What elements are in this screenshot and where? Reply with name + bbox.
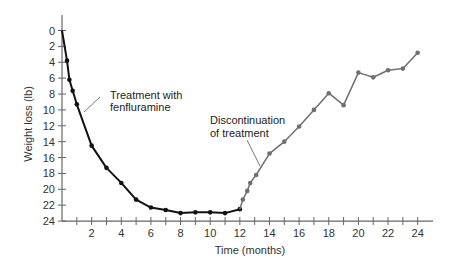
- data-point: [241, 197, 246, 202]
- x-tick-label: 18: [323, 227, 335, 239]
- y-tick-label: 0: [49, 25, 55, 37]
- data-point: [248, 181, 253, 186]
- y-axis-title: Weight loss (lb): [22, 86, 34, 162]
- annotation-leader: [247, 140, 260, 166]
- annotation-label: Treatment with: [110, 89, 182, 101]
- x-tick-label: 22: [382, 227, 394, 239]
- x-tick-label: 24: [412, 227, 424, 239]
- annotation-label: of treatment: [210, 127, 269, 139]
- annotation-layer: Treatment withfenfluramineDiscontinuatio…: [84, 89, 285, 166]
- y-tick-label: 8: [49, 88, 55, 100]
- x-tick-label: 20: [352, 227, 364, 239]
- y-tick-label: 20: [43, 183, 55, 195]
- data-point: [119, 181, 124, 186]
- data-point: [104, 166, 109, 171]
- annotation-label: Discontinuation: [210, 114, 285, 126]
- y-tick-label: 18: [43, 167, 55, 179]
- data-point: [282, 139, 287, 144]
- data-point: [371, 75, 376, 80]
- weight-loss-chart: 0246810121416182022242468101214161820222…: [0, 0, 453, 272]
- data-point: [65, 58, 70, 63]
- annotation-leader: [84, 97, 100, 112]
- y-tick-label: 6: [49, 72, 55, 84]
- x-tick-label: 10: [204, 227, 216, 239]
- x-tick-label: 14: [263, 227, 275, 239]
- data-point: [134, 197, 139, 202]
- x-tick-label: 6: [148, 227, 154, 239]
- data-point: [415, 50, 420, 55]
- data-point: [163, 208, 168, 213]
- data-point: [312, 108, 317, 113]
- data-point: [401, 66, 406, 71]
- y-tick-label: 12: [43, 120, 55, 132]
- chart-canvas: 0246810121416182022242468101214161820222…: [0, 0, 453, 272]
- data-point: [267, 151, 272, 156]
- y-tick-label: 22: [43, 199, 55, 211]
- data-point: [297, 124, 302, 129]
- y-tick-label: 2: [49, 40, 55, 52]
- data-point: [208, 210, 213, 215]
- y-tick-label: 4: [49, 56, 55, 68]
- data-point: [149, 205, 154, 210]
- x-axis-title: Time (months): [215, 244, 286, 256]
- y-tick-label: 10: [43, 104, 55, 116]
- y-tick-label: 16: [43, 152, 55, 164]
- data-point: [245, 189, 250, 194]
- y-tick-label: 14: [43, 136, 55, 148]
- data-point: [89, 143, 94, 148]
- x-tick-label: 4: [118, 227, 124, 239]
- x-tick-label: 16: [293, 227, 305, 239]
- data-point: [356, 70, 361, 75]
- data-point: [178, 211, 183, 216]
- annotation-label: fenfluramine: [110, 101, 171, 113]
- data-point: [193, 210, 198, 215]
- data-point: [254, 173, 259, 178]
- data-point: [386, 68, 391, 73]
- data-point: [75, 102, 80, 107]
- data-point: [70, 89, 75, 94]
- data-point: [67, 77, 72, 82]
- x-tick-label: 2: [89, 227, 95, 239]
- data-point: [326, 91, 331, 96]
- y-tick-label: 24: [43, 215, 55, 227]
- data-point: [341, 103, 346, 108]
- x-tick-label: 12: [234, 227, 246, 239]
- data-point: [223, 211, 228, 216]
- x-tick-label: 8: [177, 227, 183, 239]
